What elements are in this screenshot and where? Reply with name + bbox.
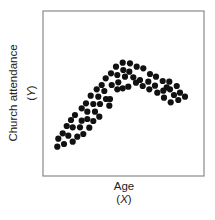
data-point	[152, 83, 158, 89]
data-point	[72, 112, 78, 118]
data-point	[99, 82, 105, 88]
data-point	[120, 60, 126, 66]
data-point	[86, 125, 92, 131]
data-point	[88, 93, 94, 99]
data-point	[140, 83, 146, 89]
data-point	[106, 103, 112, 109]
data-point	[160, 78, 166, 84]
y-axis-label: Church attendance	[7, 44, 19, 141]
data-point	[74, 134, 80, 140]
data-point	[130, 74, 136, 80]
data-point	[154, 90, 160, 96]
data-point	[153, 74, 159, 80]
data-point	[83, 100, 89, 106]
y-symbol: Y	[25, 88, 37, 97]
data-point	[115, 79, 121, 85]
data-point	[168, 99, 174, 105]
data-point	[113, 64, 119, 70]
y-axis-symbol: (Y)	[25, 85, 37, 101]
data-point	[90, 118, 96, 124]
data-point	[109, 82, 115, 88]
data-point	[96, 114, 102, 120]
data-point	[161, 95, 167, 101]
data-point	[120, 67, 126, 73]
scatter-chart: Church attendance (Y) Age (X)	[0, 0, 215, 220]
y-axis-symbol-text: (Y)	[25, 85, 37, 101]
data-point	[84, 109, 90, 115]
data-point	[77, 124, 83, 130]
data-point	[97, 101, 103, 107]
data-point	[166, 79, 172, 85]
data-point	[122, 74, 128, 80]
data-point	[65, 133, 71, 139]
data-point	[140, 65, 146, 71]
data-point	[134, 64, 140, 70]
data-point	[114, 86, 120, 92]
data-point	[70, 139, 76, 145]
x-symbol: X	[119, 193, 129, 205]
x-axis-symbol-text: (X)	[116, 193, 132, 205]
data-point	[108, 70, 114, 76]
data-point	[147, 71, 153, 77]
data-point	[92, 109, 98, 115]
data-point	[125, 84, 131, 90]
data-point	[120, 85, 126, 91]
data-point	[145, 79, 151, 85]
data-point	[171, 92, 177, 98]
data-point	[90, 101, 96, 107]
data-point	[127, 60, 133, 66]
x-axis-title: Age	[114, 180, 134, 192]
data-point	[107, 96, 113, 102]
data-point	[84, 116, 90, 122]
y-axis-title: Church attendance	[7, 44, 19, 141]
data-point	[103, 75, 109, 81]
data-point	[146, 86, 152, 92]
data-point	[94, 86, 100, 92]
data-point	[70, 124, 76, 130]
data-point	[126, 69, 132, 75]
data-point	[68, 117, 74, 123]
data-point	[54, 144, 60, 150]
data-point	[80, 131, 86, 137]
data-point	[60, 130, 66, 136]
data-point	[114, 72, 120, 78]
data-point	[174, 83, 180, 89]
data-point	[55, 136, 61, 142]
data-point	[177, 90, 183, 96]
data-point	[137, 77, 143, 83]
data-point	[79, 118, 85, 124]
data-point	[167, 86, 173, 92]
data-point	[182, 94, 188, 100]
data-point	[79, 105, 85, 111]
data-point	[61, 141, 67, 147]
data-point	[101, 88, 107, 94]
data-point	[95, 94, 101, 100]
data-point	[175, 97, 181, 103]
data-point	[64, 123, 70, 129]
